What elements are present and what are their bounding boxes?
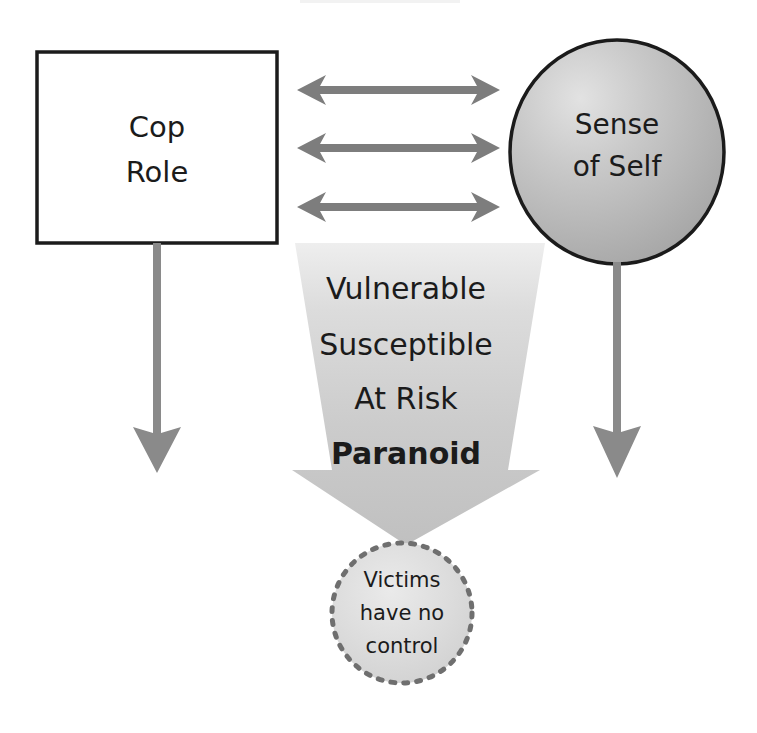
- node-sense-of-self[interactable]: Sense of Self: [510, 40, 724, 264]
- node-cop-role[interactable]: Cop Role: [37, 52, 277, 243]
- sense-of-self-label-line-2: of Self: [573, 150, 663, 183]
- diagram-canvas: Cop Role Sense of Self Vulnerable: [0, 0, 757, 733]
- victims-label-line-1: Victims: [364, 568, 441, 592]
- funnel-label-line-4: Paranoid: [331, 436, 481, 471]
- victims-label-line-3: control: [366, 634, 439, 658]
- sense-of-self-label-line-1: Sense: [575, 108, 660, 141]
- cropped-title: [300, 0, 460, 3]
- cop-sense-link-1[interactable]: [297, 75, 500, 105]
- cop-role-label-line-1: Cop: [129, 110, 185, 144]
- sense-of-self-down-arrow[interactable]: [593, 262, 641, 478]
- diagram-illustration: Cop Role Sense of Self Vulnerable: [0, 0, 757, 733]
- victims-label-line-2: have no: [360, 601, 444, 625]
- funnel-label-line-2: Susceptible: [319, 327, 493, 362]
- double-arrow-shape-2[interactable]: [297, 133, 500, 163]
- funnel-label-line-3: At Risk: [354, 381, 458, 416]
- cop-sense-link-3[interactable]: [297, 192, 500, 222]
- cop-role-label-line-2: Role: [126, 155, 189, 189]
- double-arrow-shape-1[interactable]: [297, 75, 500, 105]
- node-victims-have-no-control[interactable]: Victims have no control: [332, 543, 472, 683]
- funnel-label-line-1: Vulnerable: [326, 271, 486, 306]
- down-arrow-shape-right[interactable]: [593, 262, 641, 478]
- double-arrow-shape-3[interactable]: [297, 192, 500, 222]
- down-arrow-shape-left[interactable]: [133, 243, 181, 473]
- cop-role-down-arrow[interactable]: [133, 243, 181, 473]
- cop-sense-link-2[interactable]: [297, 133, 500, 163]
- cop-role-rect[interactable]: [37, 52, 277, 243]
